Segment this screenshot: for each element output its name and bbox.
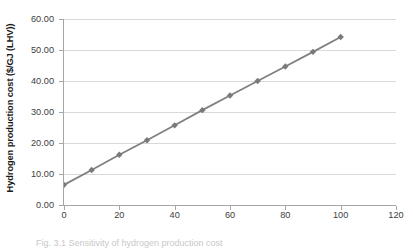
x-axis-tick-labels: 020406080100120 bbox=[0, 210, 413, 226]
figure-chart: Hydrogen production cost ($/GJ (LHV)) 0.… bbox=[0, 0, 413, 249]
x-axis-tick-label: 80 bbox=[280, 210, 290, 220]
y-axis-tick-labels: 0.0010.0020.0030.0040.0050.0060.00 bbox=[18, 0, 56, 215]
figure-caption: Fig. 3.1 Sensitivity of hydrogen product… bbox=[36, 238, 223, 249]
y-axis-tick-label: 30.00 bbox=[31, 107, 54, 117]
plot-area bbox=[64, 19, 396, 205]
data-point-marker bbox=[144, 137, 150, 143]
data-point-marker bbox=[282, 63, 288, 69]
x-axis-tick-label: 60 bbox=[225, 210, 235, 220]
y-axis-tick-label: 50.00 bbox=[31, 45, 54, 55]
x-axis-tick-label: 40 bbox=[170, 210, 180, 220]
plot-svg bbox=[64, 19, 396, 205]
data-point-marker bbox=[337, 34, 343, 40]
x-axis-tick-label: 100 bbox=[333, 210, 348, 220]
y-axis-tick-label: 0.00 bbox=[36, 200, 54, 210]
y-axis-tick-label: 20.00 bbox=[31, 138, 54, 148]
x-axis-tick-label: 0 bbox=[61, 210, 66, 220]
y-axis-tick-label: 10.00 bbox=[31, 169, 54, 179]
data-point-marker bbox=[227, 92, 233, 98]
y-axis-title: Hydrogen production cost ($/GJ (LHV)) bbox=[0, 0, 20, 215]
y-axis-tick-label: 40.00 bbox=[31, 76, 54, 86]
data-point-marker bbox=[310, 49, 316, 55]
y-axis-title-text: Hydrogen production cost ($/GJ (LHV)) bbox=[5, 23, 15, 192]
data-point-marker bbox=[254, 78, 260, 84]
x-axis-tick-label: 120 bbox=[388, 210, 403, 220]
x-axis-tick-label: 20 bbox=[114, 210, 124, 220]
y-axis-tick-label: 60.00 bbox=[31, 14, 54, 24]
